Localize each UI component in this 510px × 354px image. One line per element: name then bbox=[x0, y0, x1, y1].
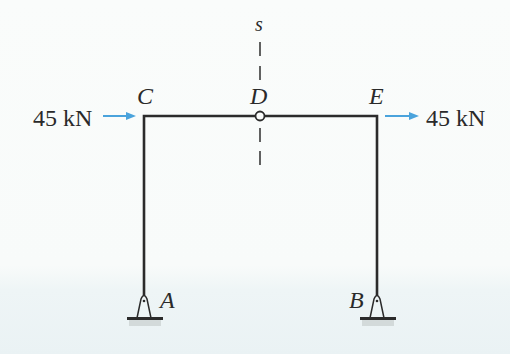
pin-support-b-icon bbox=[360, 296, 396, 327]
node-label-a: A bbox=[160, 288, 175, 312]
frame-diagram: s C D E A B 45 kN 45 kN bbox=[0, 0, 510, 354]
pin-support-a-icon bbox=[127, 296, 163, 327]
load-label-left: 45 kN bbox=[33, 106, 92, 130]
node-label-d: D bbox=[250, 84, 267, 108]
node-label-e: E bbox=[369, 84, 384, 108]
hinge-d-icon bbox=[256, 112, 265, 121]
frame-drawing bbox=[0, 0, 510, 354]
node-label-b: B bbox=[349, 288, 364, 312]
load-label-right: 45 kN bbox=[426, 106, 485, 130]
load-arrow-left bbox=[103, 112, 136, 120]
node-label-c: C bbox=[137, 84, 153, 108]
load-arrow-right bbox=[385, 112, 419, 120]
section-label: s bbox=[255, 14, 263, 34]
frame-members bbox=[144, 116, 377, 294]
